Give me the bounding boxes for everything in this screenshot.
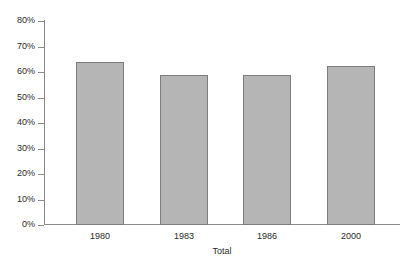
y-axis-tick xyxy=(38,225,44,226)
x-axis-label-2000: 2000 xyxy=(311,231,391,241)
bar-chart: 0%10%20%30%40%50%60%70%80% 1980198319862… xyxy=(0,0,417,268)
y-axis-tick-label: 10% xyxy=(1,195,35,204)
x-axis-title: Total xyxy=(44,246,400,256)
y-axis-tick-label: 0% xyxy=(1,220,35,229)
bar-1980 xyxy=(76,62,124,225)
x-axis-label-1980: 1980 xyxy=(60,231,140,241)
x-axis-label-1986: 1986 xyxy=(227,231,307,241)
y-axis-tick-label: 60% xyxy=(1,67,35,76)
y-axis-tick-label: 70% xyxy=(1,42,35,51)
bar-2000 xyxy=(327,66,375,225)
bar-1986 xyxy=(243,75,291,225)
y-axis-tick-label: 50% xyxy=(1,93,35,102)
bar-1983 xyxy=(160,75,208,225)
y-axis-tick-label: 20% xyxy=(1,169,35,178)
y-axis-tick-label: 30% xyxy=(1,144,35,153)
y-axis-tick-label: 40% xyxy=(1,118,35,127)
y-axis-tick-label: 80% xyxy=(1,16,35,25)
x-axis-label-1983: 1983 xyxy=(144,231,224,241)
plot-area xyxy=(44,21,400,225)
